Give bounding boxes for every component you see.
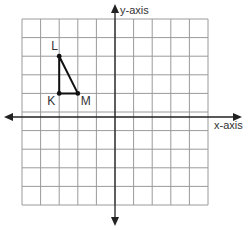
coordinate-grid	[0, 0, 250, 230]
x-axis-left-arrow-icon	[4, 113, 13, 121]
vertex-point-m	[75, 91, 80, 96]
y-axis-up-arrow-icon	[111, 4, 119, 13]
y-axis-down-arrow-icon	[111, 217, 119, 226]
vertex-label-k: K	[47, 95, 55, 107]
vertex-label-m: M	[81, 95, 91, 107]
x-axis-label: x-axis	[214, 120, 243, 131]
vertex-point-l	[57, 54, 62, 59]
vertex-label-l: L	[51, 40, 58, 52]
vertex-point-k	[57, 91, 62, 96]
y-axis-label: y-axis	[120, 5, 149, 16]
